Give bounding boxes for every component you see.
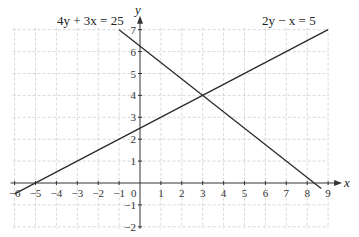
equation-label-1: 4y + 3x = 25: [57, 13, 124, 28]
x-tick-label: −3: [71, 187, 83, 199]
x-tick-label: 8: [304, 187, 310, 199]
series-line-1: [119, 30, 321, 189]
y-tick-label: 4: [131, 89, 137, 101]
x-tick-label: 4: [221, 187, 227, 199]
x-tick-label: 3: [200, 187, 206, 199]
x-tick-label: −4: [51, 187, 63, 199]
x-tick-label: −6: [9, 187, 21, 199]
x-axis-arrow-icon: [334, 180, 342, 186]
y-tick-label: −2: [124, 221, 136, 233]
x-axis-label: x: [343, 175, 350, 190]
tick-labels: −6−5−4−3−2−10123456789−2−11234567: [9, 24, 332, 233]
line-chart: −6−5−4−3−2−10123456789−2−11234567 x y 4y…: [0, 0, 359, 237]
y-tick-label: 3: [131, 111, 137, 123]
x-tick-label: −1: [113, 187, 125, 199]
x-tick-label: 9: [325, 187, 331, 199]
x-tick-label: 1: [158, 187, 164, 199]
y-tick-label: 2: [131, 133, 137, 145]
y-tick-label: −1: [124, 199, 136, 211]
x-tick-label: 5: [242, 187, 248, 199]
series-line-2: [15, 30, 329, 194]
x-tick-label: 6: [263, 187, 269, 199]
origin-label: 0: [131, 187, 137, 199]
y-tick-label: 1: [131, 155, 137, 167]
equation-label-2: 2y − x = 5: [262, 13, 316, 28]
x-tick-label: 7: [284, 187, 290, 199]
y-axis-label: y: [133, 2, 141, 17]
y-tick-label: 5: [131, 68, 137, 80]
y-tick-label: 6: [131, 46, 137, 58]
x-tick-label: 2: [179, 187, 185, 199]
x-tick-label: −2: [92, 187, 104, 199]
x-tick-label: −5: [30, 187, 42, 199]
plot-lines: [15, 30, 329, 194]
y-tick-label: 7: [131, 24, 137, 36]
